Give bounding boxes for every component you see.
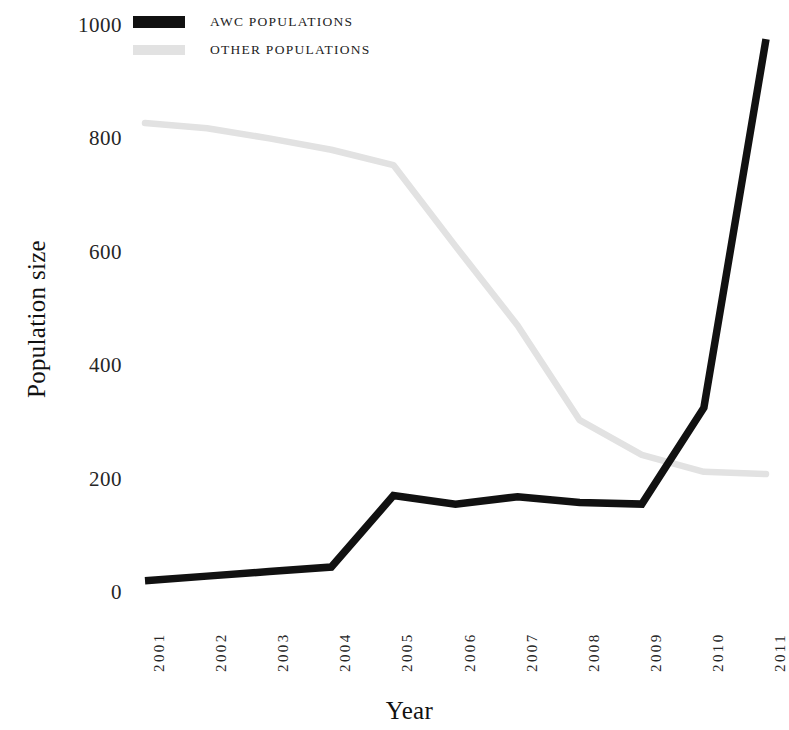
series-line-awc-populations	[145, 39, 766, 580]
series-line-other-populations	[145, 123, 766, 474]
